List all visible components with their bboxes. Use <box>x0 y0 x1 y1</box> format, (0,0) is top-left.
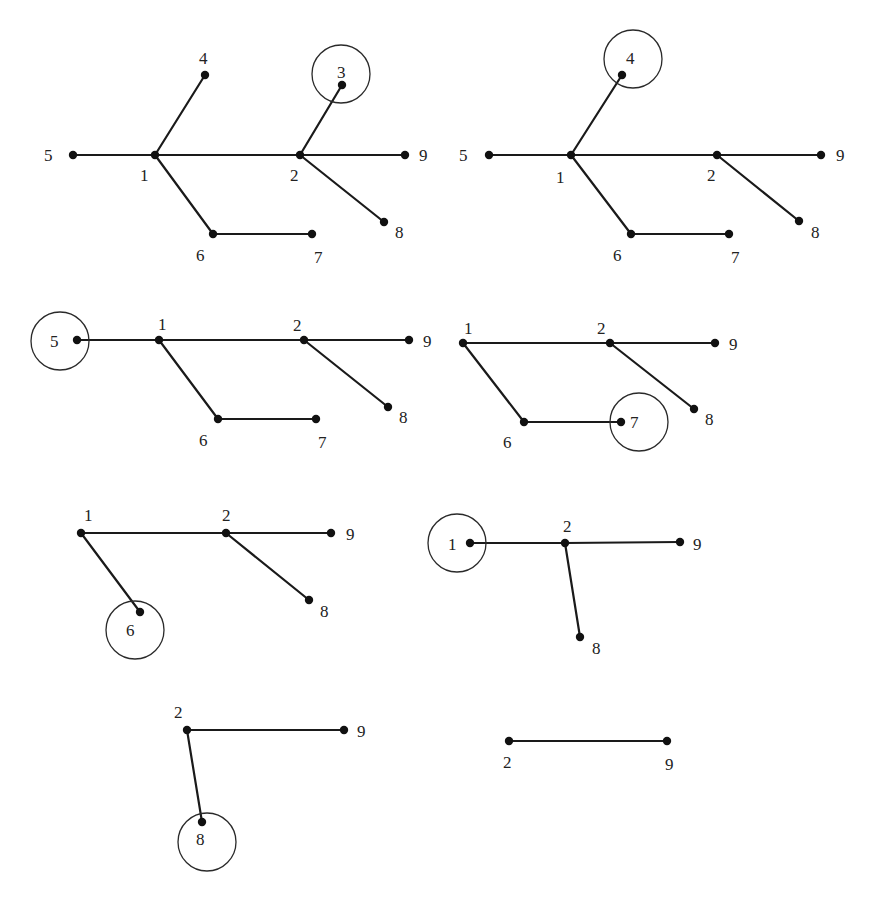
vertex-label: 1 <box>556 168 565 187</box>
vertex-label: 7 <box>731 248 740 267</box>
vertex-label: 1 <box>158 315 167 334</box>
vertex-4 <box>201 71 209 79</box>
edge-1-6 <box>81 533 140 612</box>
vertex-9 <box>327 529 335 537</box>
vertex-7 <box>617 418 625 426</box>
vertex-2 <box>183 726 191 734</box>
vertex-label: 5 <box>459 146 468 165</box>
vertex-label: 9 <box>419 146 428 165</box>
vertex-6 <box>520 418 528 426</box>
vertex-5 <box>69 151 77 159</box>
vertex-3 <box>338 81 346 89</box>
vertex-9 <box>663 737 671 745</box>
vertex-8 <box>384 403 392 411</box>
edge-1-6 <box>571 155 631 234</box>
vertex-6 <box>627 230 635 238</box>
vertex-label: 8 <box>592 639 601 658</box>
vertex-label: 7 <box>318 433 327 452</box>
vertex-9 <box>817 151 825 159</box>
vertex-6 <box>209 230 217 238</box>
vertex-1 <box>567 151 575 159</box>
vertex-7 <box>308 230 316 238</box>
vertex-label: 2 <box>222 506 231 525</box>
vertex-label: 1 <box>140 166 149 185</box>
vertex-2 <box>505 737 513 745</box>
vertex-label: 9 <box>729 335 738 354</box>
vertex-label: 8 <box>320 602 329 621</box>
edge-2-8 <box>187 730 202 822</box>
vertex-label: 8 <box>705 410 714 429</box>
vertex-label: 4 <box>626 49 635 68</box>
edge-1-4 <box>571 75 622 155</box>
vertex-1 <box>466 539 474 547</box>
vertex-label: 6 <box>196 246 205 265</box>
edge-1-6 <box>155 155 213 234</box>
vertex-8 <box>305 596 313 604</box>
vertex-label: 8 <box>811 223 820 242</box>
vertex-8 <box>576 633 584 641</box>
vertex-9 <box>401 151 409 159</box>
edge-2-8 <box>565 543 580 637</box>
vertex-label: 2 <box>563 517 572 536</box>
edge-2-8 <box>304 340 388 407</box>
edge-2-9 <box>565 542 680 543</box>
vertex-label: 9 <box>423 332 432 351</box>
vertex-label: 2 <box>707 166 716 185</box>
vertex-9 <box>711 339 719 347</box>
vertex-7 <box>725 230 733 238</box>
vertex-label: 5 <box>50 332 59 351</box>
edge-1-4 <box>155 75 205 155</box>
vertex-1 <box>77 529 85 537</box>
vertex-label: 2 <box>290 166 299 185</box>
vertex-label: 6 <box>199 431 208 450</box>
vertex-label: 9 <box>693 535 702 554</box>
vertex-label: 4 <box>199 49 208 68</box>
tree-panel-step-3: 5129867 <box>31 312 432 452</box>
vertex-label: 6 <box>126 621 135 640</box>
tree-panel-step-6: 1298 <box>428 514 702 658</box>
vertex-1 <box>459 339 467 347</box>
tree-panel-step-8: 29 <box>503 737 674 774</box>
vertex-2 <box>222 529 230 537</box>
removed-leaf-highlight <box>106 601 164 659</box>
prufer-tree-diagram: 5142398675142986751298671298671298612982… <box>0 0 873 900</box>
vertex-2 <box>300 336 308 344</box>
edge-1-6 <box>463 343 524 422</box>
vertex-2 <box>296 151 304 159</box>
edge-2-8 <box>300 155 384 222</box>
edge-2-8 <box>717 155 799 221</box>
tree-panel-step-1: 514239867 <box>44 45 428 267</box>
vertex-label: 6 <box>613 246 622 265</box>
vertex-5 <box>73 336 81 344</box>
vertex-label: 6 <box>503 433 512 452</box>
vertex-9 <box>676 538 684 546</box>
vertex-label: 2 <box>293 316 302 335</box>
edge-1-6 <box>159 340 218 419</box>
vertex-label: 9 <box>836 146 845 165</box>
vertex-1 <box>155 336 163 344</box>
vertex-8 <box>795 217 803 225</box>
edge-2-8 <box>226 533 309 600</box>
removed-leaf-highlight <box>178 813 236 871</box>
vertex-label: 7 <box>630 413 639 432</box>
vertex-label: 9 <box>346 525 355 544</box>
vertex-label: 1 <box>464 319 473 338</box>
vertex-label: 2 <box>503 753 512 772</box>
vertex-1 <box>151 151 159 159</box>
vertex-6 <box>214 415 222 423</box>
vertex-8 <box>198 818 206 826</box>
vertex-9 <box>340 726 348 734</box>
vertex-8 <box>380 218 388 226</box>
vertex-label: 8 <box>399 408 408 427</box>
tree-panel-step-2: 51429867 <box>459 30 845 267</box>
vertex-6 <box>136 608 144 616</box>
tree-panel-step-5: 12986 <box>77 506 355 659</box>
vertex-label: 8 <box>196 830 205 849</box>
vertex-4 <box>618 71 626 79</box>
vertex-label: 9 <box>357 722 366 741</box>
vertex-label: 5 <box>44 146 53 165</box>
vertex-2 <box>713 151 721 159</box>
vertex-7 <box>312 415 320 423</box>
vertex-2 <box>561 539 569 547</box>
vertex-9 <box>405 336 413 344</box>
